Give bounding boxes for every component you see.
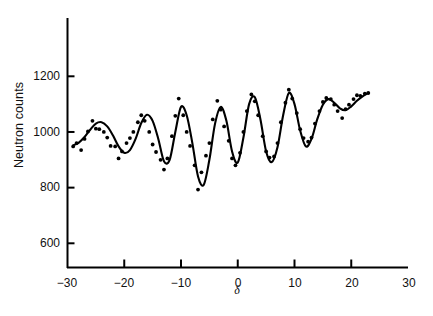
data-point: [125, 141, 129, 145]
data-point: [75, 141, 79, 145]
data-point: [358, 94, 362, 98]
data-point: [310, 136, 314, 140]
data-point: [185, 130, 189, 134]
data-point: [219, 108, 223, 112]
data-point: [105, 136, 109, 140]
data-point: [298, 127, 302, 131]
x-tick-marks: [124, 260, 351, 268]
data-point: [113, 145, 117, 149]
data-point: [159, 158, 163, 162]
plot-canvas: [0, 0, 433, 316]
data-point: [181, 113, 185, 117]
data-point: [211, 118, 215, 122]
data-point: [91, 119, 95, 123]
data-point: [94, 127, 98, 131]
data-point: [321, 100, 325, 104]
data-point: [242, 130, 246, 134]
y-tick-marks: [68, 76, 75, 243]
fitted-curve: [73, 93, 368, 186]
data-point: [136, 120, 140, 124]
data-point: [352, 97, 356, 101]
neutron-counts-figure: Neutron counts δ 600 800 1000 1200 −30 −…: [0, 0, 433, 316]
data-point: [279, 120, 283, 124]
data-point: [147, 130, 151, 134]
data-point: [204, 154, 208, 158]
data-point: [238, 151, 242, 155]
data-point: [71, 145, 75, 149]
data-point: [154, 150, 158, 154]
data-point: [336, 109, 340, 113]
data-point: [264, 150, 268, 154]
data-point: [170, 134, 174, 138]
data-point: [249, 92, 253, 96]
data-point: [79, 148, 83, 152]
data-point: [290, 97, 294, 101]
data-point: [253, 99, 257, 103]
data-point: [261, 134, 265, 138]
data-point: [173, 114, 177, 118]
data-point: [86, 130, 90, 134]
data-point: [165, 157, 169, 161]
data-point: [215, 99, 219, 103]
data-point: [276, 141, 280, 145]
data-point: [284, 101, 288, 105]
data-point: [230, 157, 234, 161]
data-point: [272, 155, 276, 159]
data-point: [256, 113, 260, 117]
data-point: [193, 163, 197, 167]
data-point: [355, 93, 359, 97]
data-point: [318, 109, 322, 113]
data-point: [332, 103, 336, 107]
data-point: [306, 140, 310, 144]
data-point: [177, 97, 181, 101]
data-point: [188, 144, 192, 148]
data-point: [234, 163, 238, 167]
data-point: [200, 170, 204, 174]
data-point: [295, 111, 299, 115]
data-point: [302, 136, 306, 140]
data-point: [131, 130, 135, 134]
data-point: [268, 156, 272, 160]
data-point: [344, 107, 348, 111]
data-point: [102, 130, 106, 134]
data-point: [222, 125, 226, 129]
data-point: [151, 143, 155, 147]
data-point: [128, 136, 132, 140]
data-point: [366, 91, 370, 95]
data-point: [287, 88, 291, 92]
data-point: [207, 141, 211, 145]
data-point: [162, 168, 166, 172]
data-point: [196, 188, 200, 192]
data-point: [245, 109, 249, 113]
data-point: [363, 92, 367, 96]
data-point: [340, 116, 344, 120]
data-point: [143, 119, 147, 123]
data-point: [109, 144, 113, 148]
data-point: [83, 137, 87, 141]
data-point: [97, 127, 101, 131]
data-point: [313, 122, 317, 126]
data-point: [347, 103, 351, 107]
data-point: [120, 150, 124, 154]
data-point: [139, 113, 143, 117]
data-point: [329, 97, 333, 101]
data-point: [117, 157, 121, 161]
axis-lines: [67, 18, 408, 268]
data-point: [324, 96, 328, 100]
data-point: [227, 139, 231, 143]
